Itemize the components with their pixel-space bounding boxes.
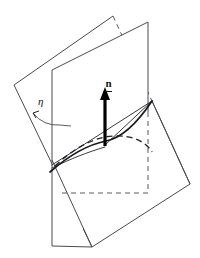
vector-underbar <box>105 91 112 93</box>
angle-label: η <box>38 96 43 107</box>
normal-vector-label: n <box>105 78 112 92</box>
figure-canvas <box>0 0 200 258</box>
vertical-plane-edge-bottom-visible <box>52 246 92 247</box>
normal-vector-letter: n <box>105 77 111 89</box>
geometry-figure: η n <box>0 0 200 258</box>
